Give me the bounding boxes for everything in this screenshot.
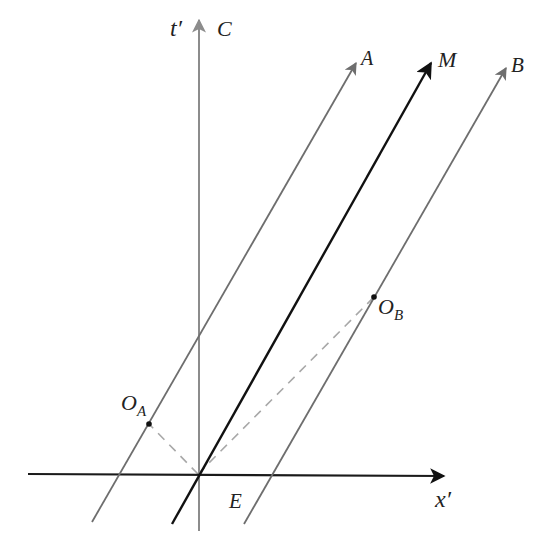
worldline-m-label: M [437,47,458,72]
spacetime-diagram: t′ C A M B OB OA E x′ [0,0,535,546]
t-axis-label: t′ [170,15,183,41]
c-line-label: C [217,16,232,41]
dashed-line-e-to-oa [149,424,198,474]
point-e-label: E [228,489,242,513]
dashed-line-e-to-ob [198,297,374,474]
worldline-a [92,63,356,522]
worldline-b-label: B [511,53,524,77]
worldline-a-label: A [359,47,374,69]
point-oa [146,421,152,427]
x-axis-line [28,474,444,476]
x-axis-label: x′ [434,486,452,512]
point-oa-label: OA [121,390,147,419]
point-ob [371,294,377,300]
point-ob-label: OB [378,294,403,323]
